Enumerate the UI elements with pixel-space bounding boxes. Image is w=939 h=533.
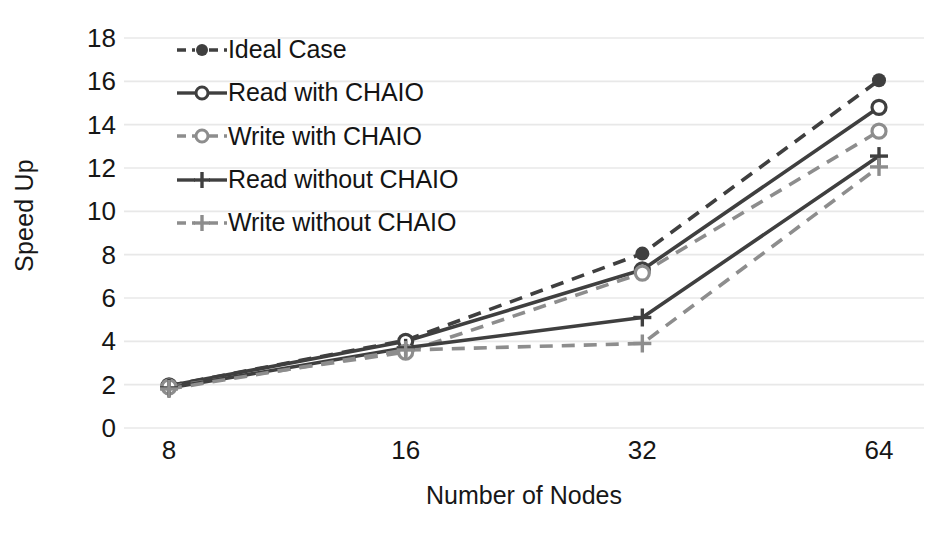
x-tick-label-32: 32 (582, 436, 702, 465)
y-tick-label: 14 (46, 112, 116, 138)
y-axis-tick-labels: 181614121086420 (42, 0, 116, 533)
x-tick-label-16: 16 (346, 436, 466, 465)
y-tick-label: 18 (46, 25, 116, 51)
legend-label: Write with CHAIO (228, 122, 422, 151)
y-axis-title: Speed Up (4, 0, 44, 430)
legend-marker-plus-icon (176, 168, 228, 192)
data-point-write-with-chaio-64 (872, 124, 886, 138)
legend-label: Read with CHAIO (228, 78, 424, 107)
y-tick-label: 8 (46, 242, 116, 268)
y-tick-label: 2 (46, 372, 116, 398)
legend-label: Ideal Case (228, 35, 347, 64)
legend-item-read-without-chaio[interactable]: Read without CHAIO (176, 158, 596, 201)
x-tick-label-64: 64 (819, 436, 939, 465)
x-axis-title: Number of Nodes (124, 481, 924, 510)
chart-legend: Ideal CaseRead with CHAIOWrite with CHAI… (176, 28, 596, 244)
x-axis-title-label: Number of Nodes (426, 481, 622, 509)
y-tick-label: 12 (46, 155, 116, 181)
data-point-ideal-case-64 (872, 73, 886, 87)
legend-marker-plus-icon (176, 211, 228, 235)
legend-marker-open-circle-icon (176, 124, 228, 148)
data-point-read-with-chaio-64 (872, 100, 886, 114)
legend-label: Read without CHAIO (228, 165, 458, 194)
data-point-write-with-chaio-32 (635, 266, 649, 280)
legend-marker-open-circle-icon (176, 81, 228, 105)
legend-marker-filled-circle-icon (176, 38, 228, 62)
y-tick-label: 4 (46, 328, 116, 354)
x-tick-label-8: 8 (109, 436, 229, 465)
legend-item-write-without-chaio[interactable]: Write without CHAIO (176, 201, 596, 244)
y-tick-label: 10 (46, 198, 116, 224)
y-tick-label: 0 (46, 415, 116, 441)
y-tick-label: 6 (46, 285, 116, 311)
x-axis-tick-labels: 8163264 (124, 436, 924, 476)
legend-item-read-with-chaio[interactable]: Read with CHAIO (176, 71, 596, 114)
y-tick-label: 16 (46, 68, 116, 94)
legend-item-ideal-case[interactable]: Ideal Case (176, 28, 596, 71)
y-axis-title-label: Speed Up (10, 159, 39, 272)
data-point-ideal-case-32 (635, 247, 649, 261)
speedup-line-chart: Speed Up 181614121086420 8163264 Number … (0, 0, 939, 533)
legend-label: Write without CHAIO (228, 208, 456, 237)
legend-item-write-with-chaio[interactable]: Write with CHAIO (176, 115, 596, 158)
